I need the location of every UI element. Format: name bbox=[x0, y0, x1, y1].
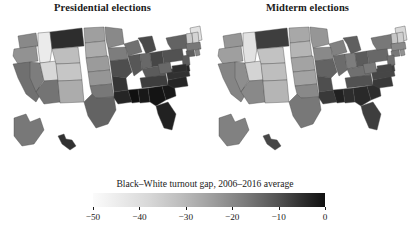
state-ri bbox=[195, 49, 200, 56]
state-co bbox=[261, 63, 287, 81]
state-fl bbox=[361, 102, 381, 130]
state-nd bbox=[84, 27, 105, 43]
state-wv bbox=[158, 62, 172, 74]
legend-tick-mark bbox=[232, 207, 233, 210]
state-wy bbox=[257, 47, 285, 64]
us-map-svg-midterm bbox=[205, 18, 410, 176]
state-ar bbox=[317, 76, 333, 92]
state-tx bbox=[289, 94, 321, 128]
legend-tick-label: −20 bbox=[225, 211, 239, 223]
state-ak bbox=[14, 114, 44, 146]
state-or bbox=[13, 46, 38, 64]
state-mt bbox=[255, 28, 289, 49]
legend-tick-label: −30 bbox=[179, 211, 193, 223]
state-sd bbox=[85, 41, 107, 58]
state-nm bbox=[58, 80, 84, 103]
state-co bbox=[56, 63, 82, 81]
state-mn bbox=[105, 27, 124, 48]
state-mt bbox=[50, 28, 84, 49]
panel-midterm: Midterm elections bbox=[205, 0, 410, 176]
legend-title: Black–White turnout gap, 2006–2016 avera… bbox=[0, 178, 410, 190]
legend-tick-label: −10 bbox=[271, 211, 285, 223]
state-sd bbox=[290, 41, 312, 58]
state-ne bbox=[86, 56, 110, 72]
legend-tick-mark bbox=[325, 207, 326, 210]
legend-tick-mark bbox=[279, 207, 280, 210]
legend-tick-mark bbox=[139, 207, 140, 210]
state-wv bbox=[363, 62, 377, 74]
state-id bbox=[243, 32, 257, 63]
state-pa bbox=[367, 48, 389, 63]
legend-tick-label: −50 bbox=[86, 211, 100, 223]
state-ks bbox=[88, 70, 112, 86]
state-or bbox=[218, 46, 243, 64]
state-mo bbox=[315, 59, 337, 78]
state-nm bbox=[263, 80, 289, 103]
state-wy bbox=[52, 47, 80, 64]
states-group bbox=[218, 26, 407, 150]
state-ne bbox=[291, 56, 315, 72]
state-pa bbox=[162, 48, 184, 63]
map-panels: Presidential elections Midterm elections bbox=[0, 0, 410, 176]
figure-root: Presidential elections Midterm elections… bbox=[0, 0, 410, 236]
panel-title-presidential: Presidential elections bbox=[0, 2, 205, 14]
state-fl bbox=[156, 102, 176, 130]
legend-colorbar bbox=[93, 193, 325, 207]
states-group bbox=[13, 26, 202, 150]
legend-tick-labels: −50−40−30−20−100 bbox=[0, 211, 410, 227]
legend: Black–White turnout gap, 2006–2016 avera… bbox=[0, 176, 410, 236]
state-ia bbox=[313, 47, 333, 61]
state-ar bbox=[112, 76, 128, 92]
choropleth-map-presidential bbox=[0, 18, 205, 176]
state-mn bbox=[310, 27, 329, 48]
legend-tick-label: −40 bbox=[132, 211, 146, 223]
state-nd bbox=[289, 27, 310, 43]
state-hi bbox=[58, 134, 76, 150]
state-ak bbox=[219, 114, 249, 146]
state-ks bbox=[293, 70, 317, 86]
panel-presidential: Presidential elections bbox=[0, 0, 205, 176]
legend-tick-mark bbox=[186, 207, 187, 210]
us-map-svg-presidential bbox=[0, 18, 205, 176]
state-id bbox=[38, 32, 52, 63]
state-hi bbox=[263, 134, 281, 150]
state-ri bbox=[400, 49, 405, 56]
state-tx bbox=[84, 94, 116, 128]
legend-tick-label: 0 bbox=[323, 211, 328, 223]
panel-title-midterm: Midterm elections bbox=[205, 2, 410, 14]
legend-tick-mark bbox=[93, 207, 94, 210]
choropleth-map-midterm bbox=[205, 18, 410, 176]
state-ia bbox=[108, 47, 128, 61]
state-mo bbox=[110, 59, 132, 78]
